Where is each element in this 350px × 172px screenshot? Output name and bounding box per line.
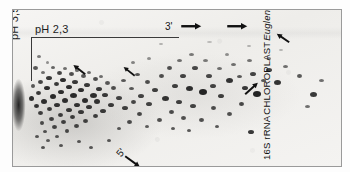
film-plate: pH 2,3 pH 3,5 3' 5' 16S rRNA CHLOROPLAST…: [12, 9, 342, 167]
autoradiogram-figure: pH 2,3 pH 3,5 3' 5' 16S rRNA CHLOROPLAST…: [0, 0, 350, 172]
film-background: [13, 10, 341, 166]
three-prime-label: 3': [165, 21, 172, 32]
